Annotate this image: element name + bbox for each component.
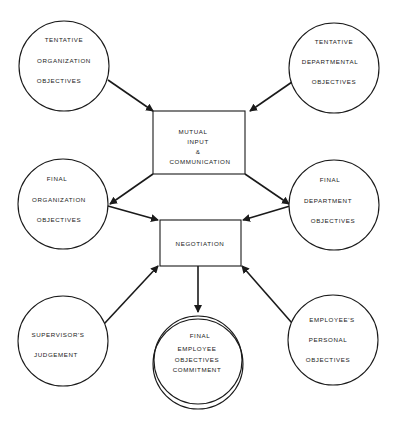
- node-employees-personal-objectives: EMPLOYEE'S PERSONAL OBJECTIVES: [288, 295, 378, 385]
- node-negotiation: NEGOTIATION: [160, 220, 241, 266]
- edge-tentative-org-to-mutual: [108, 80, 153, 111]
- label-line: INPUT: [187, 138, 209, 145]
- node-tentative-departmental-objectives: TENTATIVE DEPARTMENTAL OBJECTIVES: [289, 23, 379, 113]
- label-line: SUPERVISOR'S: [32, 331, 85, 338]
- edge-employee-personal-to-negotiation: [242, 266, 292, 323]
- label-line: OBJECTIVES: [311, 217, 356, 224]
- node-mutual-input-communication: MUTUAL INPUT & COMMUNICATION: [153, 111, 245, 174]
- node-final-employee-objectives-commitment: FINAL EMPLOYEE OBJECTIVES COMMITMENT: [153, 316, 243, 409]
- label-line: FINAL: [320, 176, 341, 183]
- edge-final-dept-to-negotiation: [243, 206, 290, 220]
- label-line: COMMUNICATION: [170, 158, 231, 165]
- label-line: OBJECTIVES: [37, 216, 82, 223]
- label-line: OBJECTIVES: [175, 356, 220, 363]
- label-line: DEPARTMENTAL: [302, 58, 358, 65]
- label-line: TENTATIVE: [315, 38, 354, 45]
- label-line: ORGANIZATION: [37, 57, 91, 64]
- edge-mutual-to-final-dept: [245, 174, 289, 204]
- edge-tentative-dept-to-mutual: [250, 82, 292, 111]
- label-line: JUDGEMENT: [34, 351, 78, 358]
- edge-mutual-to-final-org: [110, 174, 153, 204]
- node-supervisors-judgement: SUPERVISOR'S JUDGEMENT: [18, 296, 108, 386]
- label-line: TENTATIVE: [45, 36, 84, 43]
- edge-supervisor-to-negotiation: [104, 266, 158, 324]
- objectives-flow-diagram: TENTATIVE ORGANIZATION OBJECTIVES TENTAT…: [0, 0, 394, 424]
- label-line: PERSONAL: [309, 336, 348, 343]
- label-line: EMPLOYEE'S: [309, 316, 354, 323]
- label-line: ORGANIZATION: [32, 196, 86, 203]
- label-line: DEPARTMENT: [304, 197, 352, 204]
- edge-final-org-to-negotiation: [108, 206, 158, 220]
- node-final-department-objectives: FINAL DEPARTMENT OBJECTIVES: [289, 160, 379, 250]
- label-line: FINAL: [190, 332, 211, 339]
- label-line: OBJECTIVES: [306, 356, 351, 363]
- label-line: FINAL: [47, 175, 68, 182]
- node-tentative-organization-objectives: TENTATIVE ORGANIZATION OBJECTIVES: [19, 21, 109, 111]
- label-line: OBJECTIVES: [312, 78, 357, 85]
- node-final-organization-objectives: FINAL ORGANIZATION OBJECTIVES: [18, 159, 108, 249]
- label-line: EMPLOYEE: [178, 345, 217, 352]
- label-line: MUTUAL: [178, 128, 207, 135]
- label-line: &: [196, 148, 201, 155]
- label-line: NEGOTIATION: [176, 240, 225, 247]
- label-line: OBJECTIVES: [37, 77, 82, 84]
- label-line: COMMITMENT: [173, 366, 222, 373]
